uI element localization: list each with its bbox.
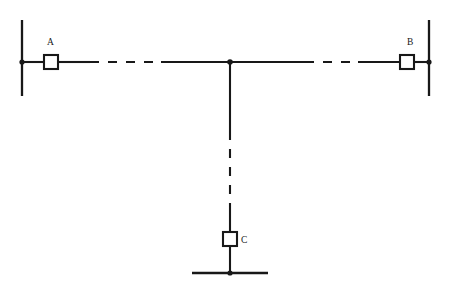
terminal-label-a: A (47, 37, 54, 47)
terminal-a (19, 20, 58, 96)
connection-node-c (227, 270, 232, 275)
connection-node-a (19, 59, 24, 64)
terminal-label-c: C (241, 235, 248, 245)
connection-node-b (426, 59, 431, 64)
circuit-breaker-c[interactable] (223, 232, 237, 246)
tap-junction-node (227, 59, 233, 65)
three-terminal-line-diagram: A B C (0, 0, 455, 289)
terminal-b (400, 20, 432, 96)
circuit-breaker-a[interactable] (44, 55, 58, 69)
circuit-breaker-b[interactable] (400, 55, 414, 69)
terminal-label-b: B (407, 37, 414, 47)
schematic-canvas: A B C (0, 0, 455, 289)
